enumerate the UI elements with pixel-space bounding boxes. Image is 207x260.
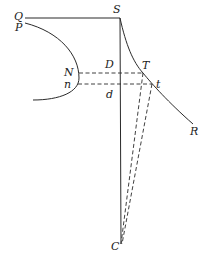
label-d: d: [106, 89, 113, 100]
label-D: D: [105, 59, 114, 70]
label-P: P: [15, 22, 22, 33]
dashed-line-tC: [122, 84, 152, 244]
label-R: R: [190, 126, 198, 137]
label-T: T: [142, 60, 149, 71]
line-SC: [120, 18, 121, 244]
label-S: S: [113, 4, 121, 15]
dashed-line-TC: [121, 73, 143, 244]
label-t: t: [156, 79, 160, 90]
diagram-drawing: [0, 0, 207, 260]
geometry-diagram: Q P S N n D d T t R C: [0, 0, 207, 260]
curve-STR: [120, 18, 193, 124]
label-N: N: [64, 67, 74, 78]
label-n: n: [64, 79, 71, 90]
label-C: C: [111, 241, 119, 252]
